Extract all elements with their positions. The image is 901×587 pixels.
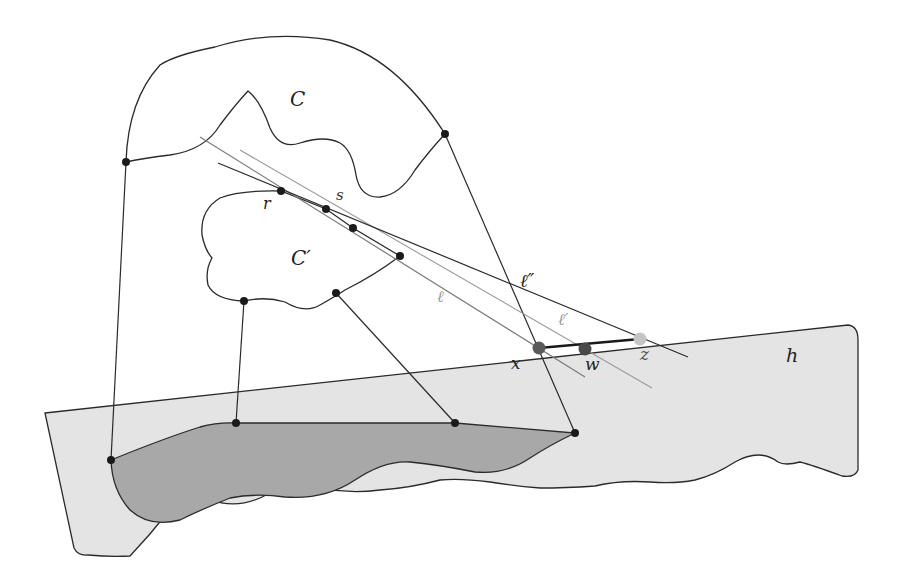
label-s: s <box>336 186 344 204</box>
point-x <box>533 342 546 355</box>
point-Cp-tangent <box>349 224 357 232</box>
diagram-canvas: C C′ r s ℓ ℓ′ ℓ″ x w z h <box>0 0 901 587</box>
label-C: C <box>290 87 305 111</box>
label-w: w <box>585 354 600 374</box>
point-C-right <box>441 130 449 138</box>
point-s <box>322 205 330 213</box>
point-r <box>277 187 285 195</box>
label-x: x <box>511 353 521 373</box>
point-Cp-bottom-mid <box>332 289 340 297</box>
point-C-left <box>122 158 130 166</box>
point-Cp-bottom-left <box>240 297 248 305</box>
label-h: h <box>786 344 798 366</box>
set-C <box>126 36 445 197</box>
label-z: z <box>639 344 650 364</box>
label-ell-prime: ℓ′ <box>558 310 569 329</box>
point-shadow-left <box>107 456 115 464</box>
label-C-prime: C′ <box>291 246 311 270</box>
point-shadow-right <box>571 429 579 437</box>
point-Cp-right <box>396 252 404 260</box>
label-ell: ℓ <box>437 287 444 306</box>
point-shadow-top-1 <box>232 419 240 427</box>
label-r: r <box>263 194 272 213</box>
label-ell-double-prime: ℓ″ <box>520 270 534 291</box>
point-shadow-top-2 <box>451 419 459 427</box>
